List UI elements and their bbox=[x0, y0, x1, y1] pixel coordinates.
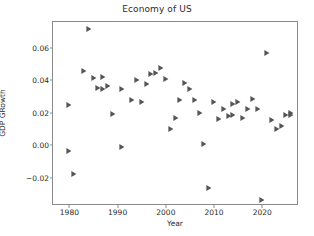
data-point bbox=[231, 112, 236, 118]
chart-figure: Economy of US −0.020.000.020.040.06 1980… bbox=[0, 0, 314, 236]
data-point bbox=[245, 106, 250, 112]
scatter-plot-area bbox=[53, 22, 297, 204]
data-point bbox=[163, 76, 168, 82]
x-tick-label: 2020 bbox=[253, 208, 272, 217]
data-point bbox=[168, 126, 173, 132]
x-tick-mark bbox=[117, 204, 118, 208]
data-point bbox=[158, 64, 163, 70]
y-tick-mark bbox=[50, 47, 54, 48]
y-tick-mark bbox=[50, 177, 54, 178]
y-tick-mark bbox=[50, 112, 54, 113]
data-point bbox=[250, 95, 255, 101]
x-tick-label: 1990 bbox=[108, 208, 127, 217]
data-point bbox=[183, 80, 188, 86]
data-point bbox=[144, 81, 149, 87]
data-point bbox=[67, 148, 72, 154]
data-point bbox=[120, 86, 125, 92]
data-point bbox=[216, 116, 221, 122]
data-point bbox=[221, 106, 226, 112]
data-point bbox=[129, 97, 134, 103]
y-tick-mark bbox=[50, 80, 54, 81]
x-tick-mark bbox=[214, 204, 215, 208]
y-tick-label: 0.02 bbox=[32, 108, 49, 117]
data-point bbox=[236, 99, 241, 105]
x-tick-mark bbox=[165, 204, 166, 208]
data-point bbox=[134, 77, 139, 83]
y-tick-label: 0.06 bbox=[32, 43, 49, 52]
data-point bbox=[139, 99, 144, 105]
data-point bbox=[101, 74, 106, 80]
x-tick-mark bbox=[262, 204, 263, 208]
data-point bbox=[279, 123, 284, 129]
y-tick-label: 0.04 bbox=[32, 76, 49, 85]
data-point bbox=[260, 197, 265, 203]
data-point bbox=[110, 111, 115, 117]
x-axis-label: Year bbox=[52, 219, 298, 228]
y-tick-label: −0.02 bbox=[26, 173, 49, 182]
data-point bbox=[197, 110, 202, 116]
data-point bbox=[178, 97, 183, 103]
data-point bbox=[192, 97, 197, 103]
data-point bbox=[211, 99, 216, 105]
x-tick-mark bbox=[69, 204, 70, 208]
data-point bbox=[207, 184, 212, 190]
data-point bbox=[67, 102, 72, 108]
data-point bbox=[105, 82, 110, 88]
data-point bbox=[173, 115, 178, 121]
data-point bbox=[72, 171, 77, 177]
x-tick-label: 2000 bbox=[156, 208, 175, 217]
data-point bbox=[269, 117, 274, 123]
data-point bbox=[255, 105, 260, 111]
data-point bbox=[86, 26, 91, 32]
data-point bbox=[81, 68, 86, 74]
x-tick-label: 2010 bbox=[205, 208, 224, 217]
data-point bbox=[265, 50, 270, 56]
chart-title: Economy of US bbox=[0, 4, 314, 14]
data-point bbox=[202, 141, 207, 147]
plot-frame: −0.020.000.020.040.06 198019902000201020… bbox=[52, 21, 298, 205]
data-point bbox=[187, 86, 192, 92]
data-point bbox=[120, 144, 125, 150]
y-tick-mark bbox=[50, 145, 54, 146]
y-axis-label: GDP GRowth bbox=[0, 89, 7, 137]
data-point bbox=[289, 112, 294, 118]
data-point bbox=[91, 74, 96, 80]
y-tick-label: 0.00 bbox=[32, 141, 49, 150]
data-point bbox=[240, 115, 245, 121]
x-tick-label: 1980 bbox=[60, 208, 79, 217]
